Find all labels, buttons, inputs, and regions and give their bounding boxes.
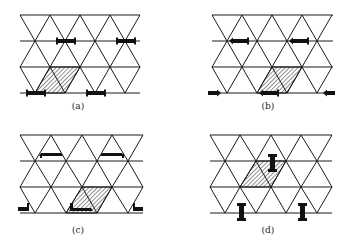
caption-d: (d) — [248, 225, 288, 235]
panel-a-unit-cell — [35, 67, 80, 93]
caption-b: (b) — [248, 101, 288, 111]
caption-c: (c) — [58, 225, 98, 235]
panel-d-unit-cell — [240, 161, 286, 187]
panel-b-unit-cell — [257, 67, 302, 93]
triangular-lattice-figure — [0, 0, 353, 249]
panel-a-lattice — [20, 15, 140, 93]
caption-a: (a) — [58, 101, 98, 111]
